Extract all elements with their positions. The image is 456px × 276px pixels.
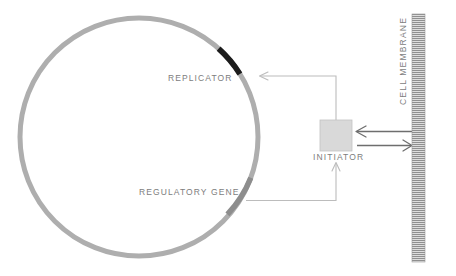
regulatory-gene-label: REGULATORY GENE [139, 188, 239, 197]
initiator-to-replicator-line [260, 76, 336, 120]
diagram-canvas [0, 0, 456, 276]
initiator-label: INITIATOR [313, 153, 364, 162]
cell-membrane-label: CELL MEMBRANE [399, 25, 408, 105]
cell-membrane-band [412, 14, 425, 262]
replicon-diagram: REPLICATOR REGULATORY GENE INITIATOR CEL… [0, 0, 456, 276]
replicator-locus [219, 49, 240, 74]
replicator-label: REPLICATOR [168, 74, 233, 83]
initiator-protein-box [320, 120, 352, 151]
regulatory-gene-to-initiator-line [246, 163, 336, 201]
